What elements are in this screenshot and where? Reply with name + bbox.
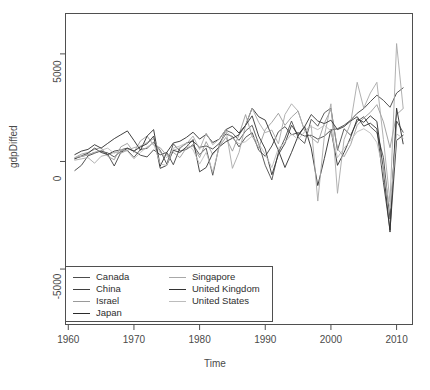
legend-item-united-states: United States	[169, 295, 260, 307]
legend-item-china: China	[73, 283, 129, 295]
series-line-singapore	[75, 44, 403, 202]
legend-swatch-icon	[73, 313, 90, 314]
legend-swatch-icon	[73, 301, 90, 302]
legend-item-japan: Japan	[73, 307, 129, 319]
legend-swatch-icon	[169, 289, 186, 290]
y-axis-title: gdpDiffed	[8, 125, 19, 168]
y-tick-label: 0	[52, 161, 63, 197]
series-line-japan	[75, 108, 403, 232]
series-line-canada	[75, 108, 403, 219]
x-tick-label: 2010	[375, 334, 419, 345]
chart-figure: gdpDiffed Time 196019701980199020002010 …	[0, 0, 430, 390]
legend-item-label: Israel	[96, 295, 119, 307]
legend-swatch-icon	[169, 301, 186, 302]
legend-swatch-icon	[169, 277, 186, 278]
x-tick-label: 2000	[309, 334, 353, 345]
legend-item-united-kingdom: United Kingdom	[169, 283, 260, 295]
y-tick-label: -5000	[52, 269, 63, 305]
legend: CanadaChinaIsraelJapan SingaporeUnited K…	[65, 266, 273, 322]
y-tick-label: 5000	[52, 53, 63, 89]
x-tick-label: 1980	[178, 334, 222, 345]
legend-item-label: United States	[192, 295, 249, 307]
legend-column-left: CanadaChinaIsraelJapan	[73, 271, 129, 319]
x-tick-label: 1960	[46, 334, 90, 345]
legend-column-right: SingaporeUnited KingdomUnited States	[169, 271, 260, 307]
series-line-united-states	[75, 125, 403, 208]
x-tick-label: 1990	[243, 334, 287, 345]
legend-item-label: Canada	[96, 271, 129, 283]
x-tick-label: 1970	[112, 334, 156, 345]
legend-item-singapore: Singapore	[169, 271, 260, 283]
legend-item-label: Japan	[96, 307, 122, 319]
series-line-united-kingdom	[75, 115, 403, 230]
legend-item-canada: Canada	[73, 271, 129, 283]
legend-item-israel: Israel	[73, 295, 129, 307]
series-layer	[75, 44, 403, 233]
x-axis-title: Time	[0, 358, 430, 369]
legend-swatch-icon	[73, 277, 90, 278]
legend-item-label: United Kingdom	[192, 283, 260, 295]
line-chart-plot	[0, 0, 430, 390]
legend-item-label: Singapore	[192, 271, 235, 283]
legend-item-label: China	[96, 283, 121, 295]
legend-swatch-icon	[73, 289, 90, 290]
